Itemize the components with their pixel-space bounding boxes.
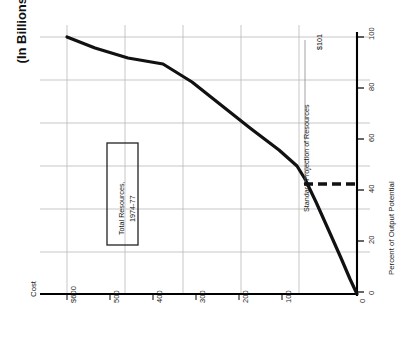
cost-tick-label-500: 500: [113, 290, 121, 303]
grid-lines-percent: [67, 25, 299, 294]
cost-tick-label-100: 100: [285, 290, 293, 303]
percent-tick-label-20: 20: [368, 235, 376, 244]
percent-axis-title: Percent of Output Potential: [388, 181, 396, 275]
cost-curve: [67, 37, 357, 294]
standard-projection-value: $101: [316, 34, 323, 50]
percent-tick-label-40: 40: [368, 184, 376, 193]
cost-tick-label-600: $600: [70, 286, 78, 303]
standard-projection-label: Standard Projection of Resources: [303, 105, 310, 212]
cost-tick-label-400: 400: [156, 290, 164, 303]
percent-tick-label-0: 0: [368, 291, 376, 295]
percent-tick-label-100: 100: [368, 27, 376, 40]
cost-tick-label-200: 200: [242, 290, 250, 303]
grid-lines-cost: [40, 37, 370, 252]
cost-axis-title: Cost: [30, 281, 38, 297]
total-resources-label-line2: 1974-77: [129, 196, 136, 222]
cost-tick-label-300: 300: [199, 290, 207, 303]
percent-tick-label-80: 80: [368, 82, 376, 91]
chart-figure: (In Billions: [0, 0, 406, 343]
percent-tick-label-60: 60: [368, 133, 376, 142]
total-resources-label-line1: Total Resources,: [118, 181, 125, 235]
cost-tick-label-0: 0: [359, 299, 367, 303]
